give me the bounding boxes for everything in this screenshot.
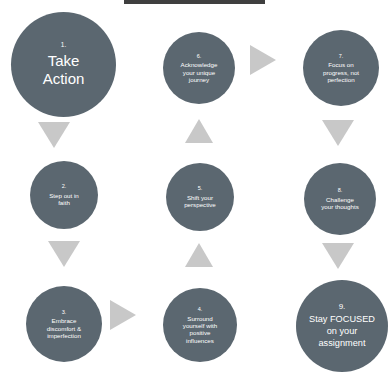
node-9-number: 9. [339,302,346,311]
arrow-6-to-7-icon [250,45,276,75]
node-6-label: Acknowledge your unique journey [181,61,218,83]
arrow-4-to-5-icon [185,243,213,267]
node-7-label: Focus on progress, not perfection [323,61,359,83]
node-3-number: 3. [62,309,67,315]
node-2-number: 2. [62,183,67,189]
node-8[interactable]: 8.Challenge your thoughts [304,163,376,235]
node-4-number: 4. [198,306,203,312]
node-8-number: 8. [338,187,343,193]
node-1-number: 1. [61,41,66,49]
node-9-label: Stay FOCUSED on your assignment [309,314,375,350]
node-5-number: 5. [198,185,203,191]
diagram-canvas: 1.Take Action2.Step out in faith3.Embrac… [0,0,391,380]
arrow-8-to-9-icon [322,243,354,269]
node-2[interactable]: 2.Step out in faith [30,161,98,229]
node-3-label: Embrace discomfort & imperfection [47,317,81,339]
node-6[interactable]: 6.Acknowledge your unique journey [163,32,235,104]
node-5[interactable]: 5.Shift your perspective [166,163,234,231]
node-4[interactable]: 4.Surround yourself with positive influe… [163,288,237,362]
node-1[interactable]: 1.Take Action [11,12,116,117]
arrow-1-to-2-icon [38,122,70,148]
node-9[interactable]: 9.Stay FOCUSED on your assignment [296,280,388,372]
node-5-label: Shift your perspective [184,194,216,209]
arrow-2-to-3-icon [48,241,80,267]
arrow-3-to-4-icon [110,300,136,330]
node-8-label: Challenge your thoughts [321,196,359,211]
node-7-number: 7. [339,53,344,59]
node-2-label: Step out in faith [49,192,79,207]
node-1-label: Take Action [43,52,85,89]
title-bar [124,0,265,4]
node-4-label: Surround yourself with positive influenc… [183,315,217,344]
arrow-5-to-6-icon [185,119,213,143]
node-7[interactable]: 7.Focus on progress, not perfection [303,30,379,106]
arrow-7-to-8-icon [322,120,354,146]
node-6-number: 6. [197,53,202,59]
node-3[interactable]: 3.Embrace discomfort & imperfection [26,286,102,362]
